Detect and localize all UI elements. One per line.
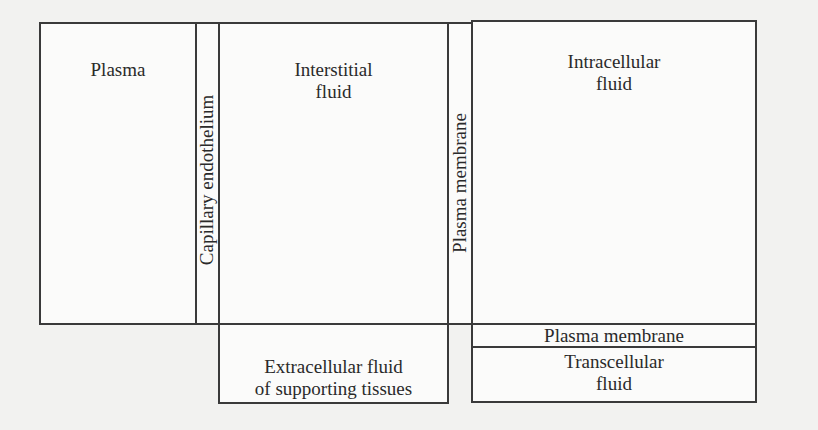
plasma-membrane-vertical-label: Plasma membrane: [449, 113, 471, 253]
intracellular-fluid-label: Intracellular fluid: [471, 51, 757, 95]
interstitial-fluid-label: Interstitial fluid: [218, 59, 449, 103]
extracellular-supporting-tissues-label: Extracellular fluid of supporting tissue…: [218, 356, 449, 400]
capillary-endothelium-label: Capillary endothelium: [196, 95, 218, 265]
fluid-compartment-diagram: Plasma Capillary endothelium Interstitia…: [0, 0, 818, 430]
plasma-label: Plasma: [39, 59, 197, 81]
transcellular-fluid-label: Transcellular fluid: [471, 351, 757, 395]
plasma-membrane-horizontal-label: Plasma membrane: [471, 325, 757, 347]
